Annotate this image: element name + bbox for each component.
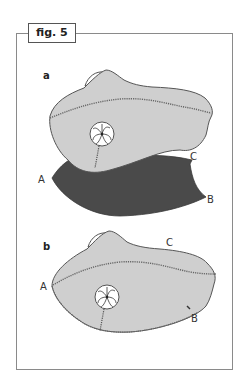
panel-b-point-A: A [40, 281, 47, 292]
panel-a-label: a [43, 70, 50, 81]
panel-b-point-C: C [166, 237, 173, 248]
panel-b: b A B C [40, 231, 216, 332]
panel-a-point-B: B [207, 194, 214, 205]
panel-b-point-B: B [191, 313, 198, 324]
panel-a: a A B C [38, 70, 214, 216]
panel-a-radial-circle-icon [90, 122, 114, 146]
panel-a-body [50, 70, 213, 172]
panel-a-point-C: C [190, 151, 197, 162]
panel-b-radial-circle-icon [95, 285, 119, 309]
panel-b-label: b [43, 241, 50, 252]
figure-illustration: a A B C b [0, 0, 244, 391]
panel-a-point-A: A [38, 174, 45, 185]
